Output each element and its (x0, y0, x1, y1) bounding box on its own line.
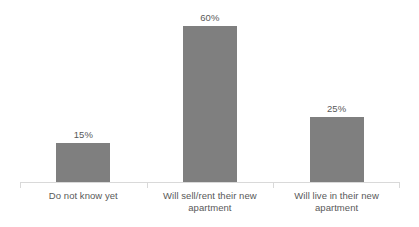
x-axis-label-0: Do not know yet (20, 190, 147, 202)
x-axis-tick-2 (273, 183, 274, 188)
bar-group-0: 15% (20, 0, 147, 182)
bar-will-sell-rent-their-new-apartment[interactable] (183, 26, 237, 182)
x-axis-tick-labels: Do not know yet Will sell/rent their new… (20, 190, 400, 227)
x-axis-label-0-line-0: Do not know yet (20, 190, 147, 202)
x-axis-label-1-line-1: apartment (147, 202, 274, 214)
bar-value-label-0: 15% (74, 129, 93, 140)
bar-value-label-2: 25% (327, 103, 346, 114)
x-axis-tick-0 (20, 183, 21, 188)
x-axis-label-2-line-1: apartment (273, 202, 400, 214)
bar-group-2: 25% (273, 0, 400, 182)
bar-do-not-know-yet[interactable] (56, 143, 110, 182)
bar-value-label-1: 60% (200, 12, 219, 23)
plot-area: 15% 60% 25% (20, 0, 400, 182)
x-axis-label-1: Will sell/rent their new apartment (147, 190, 274, 213)
x-axis-label-2-line-0: Will live in their new (273, 190, 400, 202)
x-axis-tick-3 (399, 183, 400, 188)
x-axis-label-1-line-0: Will sell/rent their new (147, 190, 274, 202)
x-axis-line (20, 182, 400, 183)
bar-group-1: 60% (147, 0, 274, 182)
x-axis-label-2: Will live in their new apartment (273, 190, 400, 213)
x-axis-tick-1 (147, 183, 148, 188)
bar-chart: 15% 60% 25% Do not know yet Will sell/re… (0, 0, 419, 227)
bar-will-live-in-their-new-apartment[interactable] (310, 117, 364, 182)
